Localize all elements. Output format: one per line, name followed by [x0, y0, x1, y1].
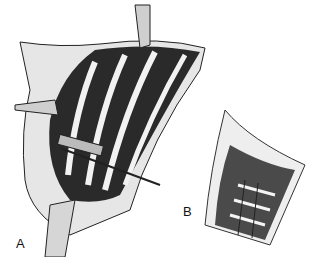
- panel-label-a: A: [16, 236, 25, 251]
- surgical-illustration: [0, 0, 321, 257]
- panel-a-illustration: [15, 5, 205, 257]
- panel-label-b: B: [183, 204, 192, 219]
- panel-b-illustration: [205, 110, 305, 245]
